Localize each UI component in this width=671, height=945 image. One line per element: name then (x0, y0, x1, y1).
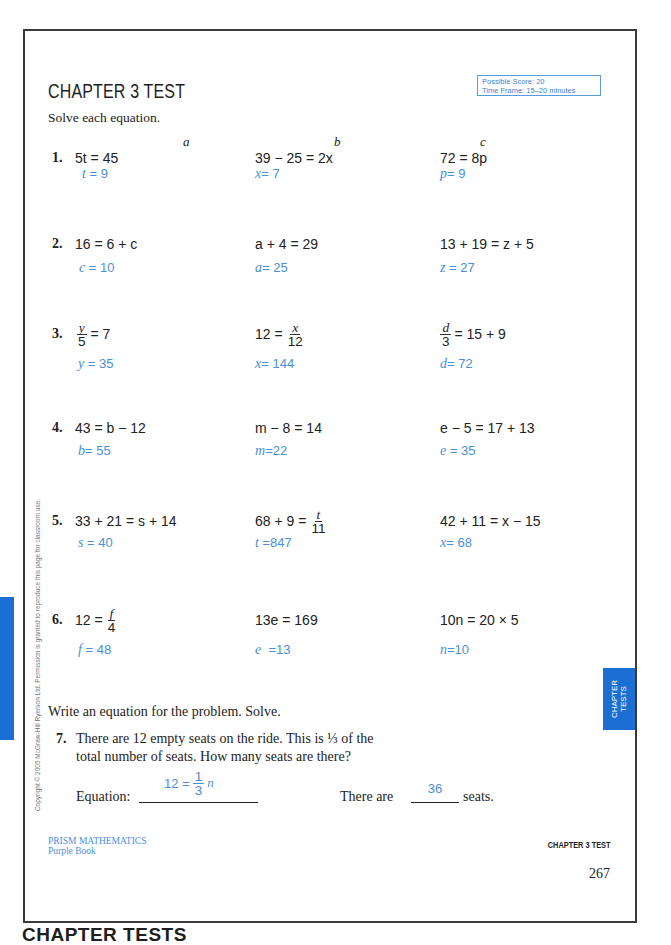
answer-variable: n (440, 642, 447, 657)
equation-text: 10n = 20 × 5 (440, 612, 519, 628)
answer-3a: y = 35 (78, 356, 114, 372)
problem-number: 1. (52, 144, 63, 172)
answer-value: = 27 (445, 260, 474, 275)
left-edge-tab (0, 597, 14, 740)
answer-value: = 144 (261, 356, 294, 371)
fraction: d3 (440, 321, 452, 348)
denominator: 4 (106, 621, 118, 634)
equation-label: Equation: (76, 789, 130, 805)
answer-value: = 35 (446, 443, 475, 458)
equation-text: 33 + 21 = s + 14 (75, 513, 177, 529)
denominator: 11 (309, 522, 327, 535)
there-are-label: There are (340, 789, 393, 805)
seats-answer: 36 (411, 781, 459, 796)
instructions: Solve each equation. (48, 110, 160, 126)
equation-answer: 12 = 13 n (164, 770, 214, 796)
column-label-b: b (334, 134, 341, 150)
equation-text: 13 + 19 = z + 5 (440, 236, 534, 252)
equation-text: = 7 (91, 326, 111, 342)
equation-5c: 42 + 11 = x − 15 (440, 507, 541, 535)
equation-3b: 12 =x12 (255, 320, 308, 348)
score-box: Possible Score: 20 Time Frame: 15–20 min… (477, 75, 601, 96)
answer-value: = 9 (447, 166, 465, 181)
answer-variable: a (255, 260, 262, 275)
answer-variable: b (78, 443, 85, 458)
answer-3c: d= 72 (440, 356, 473, 372)
equation-text: 12 = (75, 612, 103, 628)
equation-4b: m − 8 = 14 (255, 414, 322, 442)
answer-value: =847 (259, 535, 292, 550)
answer-4a: b= 55 (78, 443, 111, 459)
answer-2a: c = 10 (79, 260, 115, 276)
answer-value: =10 (447, 642, 469, 657)
numerator: 1 (193, 770, 205, 784)
problem-number: 3. (52, 320, 63, 348)
equation-text: 72 = 8p (440, 150, 487, 166)
answer-variable: n (207, 775, 214, 791)
answer-6c: n=10 (440, 642, 469, 658)
equation-3c: d3= 15 + 9 (437, 320, 506, 348)
answer-variable: m (255, 443, 265, 458)
problem-number: 2. (52, 230, 63, 258)
answer-5a: s = 40 (78, 535, 113, 551)
answer-6a: f = 48 (78, 642, 111, 658)
equation-text: 42 + 11 = x − 15 (440, 513, 541, 529)
equation-text: = 15 + 9 (455, 326, 506, 342)
tab-label-line-1: CHAPTER (610, 680, 619, 718)
answer-value: = 7 (261, 166, 279, 181)
equation-4c: e − 5 = 17 + 13 (440, 414, 535, 442)
fraction: 13 (193, 770, 205, 797)
answer-value: = 35 (84, 356, 113, 371)
tab-label-line-2: TESTS (619, 680, 628, 718)
equation-text: 12 = (164, 776, 190, 791)
denominator: 3 (440, 335, 452, 348)
word-problem-line-1: There are 12 empty seats on the ride. Th… (76, 731, 374, 747)
equation-text: m − 8 = 14 (255, 420, 322, 436)
column-label-a: a (183, 134, 190, 150)
answer-variable: p (440, 166, 447, 181)
answer-value: = 55 (85, 443, 111, 458)
equation-2b: a + 4 = 29 (255, 230, 318, 258)
equation-2a: 16 = 6 + c (75, 230, 137, 258)
equation-text: 43 = b − 12 (75, 420, 146, 436)
copyright-notice: Copyright © 2005 McGraw-Hill Ryerson Ltd… (34, 499, 41, 811)
numerator: t (315, 508, 323, 522)
answer-value: = 10 (85, 260, 114, 275)
bottom-section-label: CHAPTER TESTS (22, 924, 187, 945)
answer-1c: p= 9 (440, 166, 465, 182)
answer-2b: a= 25 (255, 260, 288, 276)
equation-text: 13e = 169 (255, 612, 318, 628)
answer-value: =22 (265, 443, 287, 458)
fraction: t11 (309, 508, 327, 535)
answer-5c: x= 68 (440, 535, 472, 551)
answer-value: = 9 (86, 166, 108, 181)
word-problem-line-2: total number of seats. How many seats ar… (76, 749, 351, 765)
answer-value: = 72 (447, 356, 473, 371)
equation-5a: 33 + 21 = s + 14 (75, 507, 177, 535)
answer-1a: t = 9 (82, 166, 108, 182)
problem-number: 4. (52, 414, 63, 442)
equation-4a: 43 = b − 12 (75, 414, 146, 442)
answer-6b: e =13 (255, 642, 291, 658)
answer-3b: x= 144 (255, 356, 294, 372)
numerator: y (77, 321, 87, 335)
numerator: x (290, 321, 300, 335)
answer-value: = 40 (83, 535, 112, 550)
answer-2c: z = 27 (440, 260, 475, 276)
equation-3a: y5= 7 (73, 320, 110, 348)
seats-label: seats. (463, 789, 494, 805)
denominator: 3 (193, 784, 205, 797)
equation-text: 12 = (255, 326, 283, 342)
word-problem-instructions: Write an equation for the problem. Solve… (48, 704, 281, 720)
book-title: Purple Book (48, 846, 146, 856)
answer-1b: x= 7 (255, 166, 280, 182)
denominator: 5 (76, 335, 88, 348)
equation-text: 16 = 6 + c (75, 236, 137, 252)
footer-chapter: CHAPTER 3 TEST (548, 840, 611, 850)
problem-number: 7. (56, 731, 67, 747)
fraction: f4 (106, 607, 118, 634)
answer-variable: d (440, 356, 447, 371)
answer-value: = 68 (446, 535, 472, 550)
time-frame: Time Frame: 15–20 minutes (482, 86, 596, 95)
equation-6c: 10n = 20 × 5 (440, 606, 519, 634)
